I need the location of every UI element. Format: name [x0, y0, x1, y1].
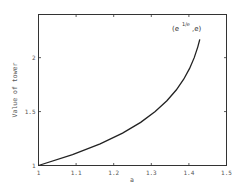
svg-text:1/e: 1/e — [182, 21, 190, 27]
power-tower-chart: 11.11.21.31.41.511.52 a Value of tower (… — [0, 0, 241, 187]
axis-ticks — [39, 15, 227, 166]
y-axis-label: Value of tower — [11, 63, 19, 118]
tick-labels: 11.11.21.31.41.511.52 — [25, 54, 233, 176]
x-tick-label: 1.1 — [71, 169, 82, 176]
plot-frame — [39, 15, 227, 166]
x-tick-label: 1.2 — [108, 169, 119, 176]
y-tick-label: 1 — [32, 162, 36, 169]
x-tick-label: 1.3 — [146, 169, 157, 176]
annotation-point-label: (e 1/e ,e) — [172, 21, 202, 33]
y-tick-label: 1.5 — [25, 108, 36, 115]
svg-text:(e: (e — [172, 25, 179, 33]
y-tick-label: 2 — [32, 54, 36, 61]
tower-curve — [39, 39, 200, 165]
x-tick-label: 1 — [37, 169, 41, 176]
x-tick-label: 1.5 — [221, 169, 232, 176]
x-axis-label: a — [130, 176, 134, 184]
x-tick-label: 1.4 — [183, 169, 194, 176]
svg-text:,e): ,e) — [192, 25, 202, 33]
